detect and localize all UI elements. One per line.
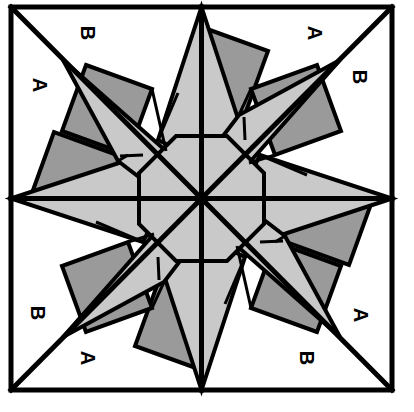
label-a-right-bottom: A: [350, 308, 372, 322]
star-tessellation-figure: B A A B B A A B: [0, 0, 414, 412]
seam-n-right: [244, 117, 245, 140]
label-a-left-top: A: [29, 78, 51, 92]
label-a-top-right: A: [304, 26, 326, 40]
seam-e-bot: [260, 241, 283, 242]
label-b-top-left: B: [77, 26, 99, 40]
label-b-left-bottom: B: [27, 306, 49, 320]
figure-root: B A A B B A A B: [0, 0, 414, 412]
label-a-bottom-left: A: [77, 351, 99, 365]
construction-lines: [11, 7, 392, 390]
seam-w-top: [120, 155, 143, 156]
label-b-bottom-right: B: [296, 351, 318, 365]
label-b-right-top: B: [349, 70, 371, 84]
seam-s-left: [158, 257, 159, 280]
